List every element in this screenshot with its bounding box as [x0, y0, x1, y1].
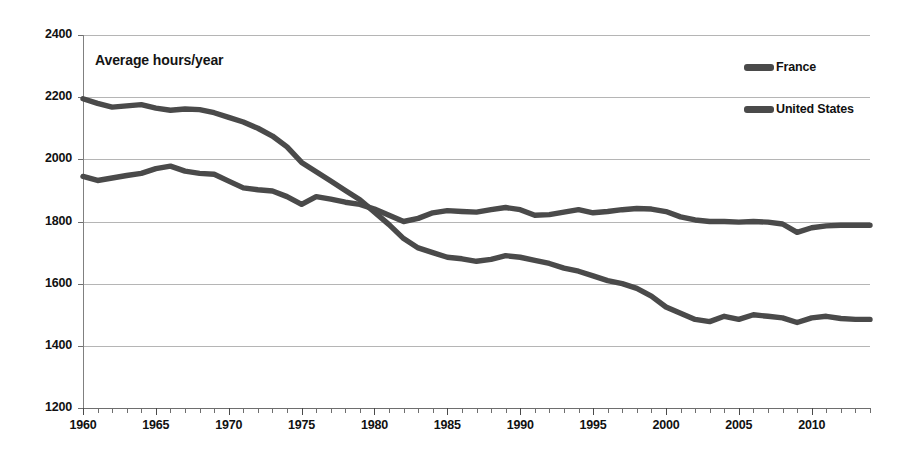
x-axis-tick-label: 1995	[580, 418, 607, 432]
y-axis-tick-label: 2000	[10, 151, 72, 165]
x-axis-tick-label: 1985	[434, 418, 461, 432]
x-tick-minor	[389, 408, 390, 413]
x-tick-minor	[331, 408, 332, 413]
legend-swatch-france	[744, 64, 774, 71]
x-tick-minor	[287, 408, 288, 413]
x-tick-minor	[622, 408, 623, 413]
x-tick-minor	[491, 408, 492, 413]
gridline	[83, 284, 870, 285]
x-tick-minor	[258, 408, 259, 413]
legend-label-united-states: United States	[776, 102, 854, 116]
x-tick-minor	[651, 408, 652, 413]
x-tick-major	[739, 408, 740, 415]
x-tick-minor	[637, 408, 638, 413]
x-tick-minor	[710, 408, 711, 413]
x-tick-minor	[272, 408, 273, 413]
x-tick-minor	[506, 408, 507, 413]
x-tick-major	[812, 408, 813, 415]
x-tick-major	[520, 408, 521, 415]
y-axis-tick-label: 1800	[10, 214, 72, 228]
y-axis-tick-label: 2200	[10, 89, 72, 103]
y-axis-line	[83, 35, 84, 408]
x-axis-tick-label: 2005	[725, 418, 752, 432]
gridline	[83, 35, 870, 36]
x-axis-tick-label: 1975	[288, 418, 315, 432]
x-axis-tick-label: 1960	[69, 418, 96, 432]
x-tick-major	[447, 408, 448, 415]
legend-swatch-united-states	[744, 106, 774, 113]
gridline	[83, 159, 870, 160]
y-axis-tick-label: 2400	[10, 27, 72, 41]
x-axis-tick-label: 1980	[361, 418, 388, 432]
x-tick-minor	[724, 408, 725, 413]
x-tick-minor	[681, 408, 682, 413]
x-tick-major	[593, 408, 594, 415]
x-tick-major	[229, 408, 230, 415]
x-tick-minor	[418, 408, 419, 413]
x-tick-minor	[564, 408, 565, 413]
x-tick-major	[302, 408, 303, 415]
x-tick-minor	[316, 408, 317, 413]
legend-entry-united-states[interactable]: United States	[744, 102, 894, 116]
gridline	[83, 222, 870, 223]
x-tick-minor	[345, 408, 346, 413]
x-tick-minor	[433, 408, 434, 413]
x-tick-minor	[200, 408, 201, 413]
y-axis-tick-label: 1400	[10, 338, 72, 352]
legend-entry-france[interactable]: France	[744, 60, 894, 74]
legend: France United States	[744, 60, 894, 144]
x-tick-minor	[841, 408, 842, 413]
x-tick-minor	[141, 408, 142, 413]
legend-label-france: France	[776, 60, 816, 74]
x-tick-minor	[477, 408, 478, 413]
x-tick-major	[666, 408, 667, 415]
x-tick-minor	[579, 408, 580, 413]
x-tick-minor	[98, 408, 99, 413]
x-tick-minor	[549, 408, 550, 413]
x-tick-minor	[462, 408, 463, 413]
line-chart: 1200140016001800200022002400 19601965197…	[0, 0, 913, 469]
x-tick-minor	[695, 408, 696, 413]
x-tick-minor	[404, 408, 405, 413]
x-tick-major	[374, 408, 375, 415]
x-tick-minor	[112, 408, 113, 413]
x-tick-minor	[127, 408, 128, 413]
x-tick-minor	[214, 408, 215, 413]
chart-title: Average hours/year	[95, 52, 223, 68]
x-axis-tick-label: 1970	[215, 418, 242, 432]
x-axis-tick-label: 2000	[652, 418, 679, 432]
y-axis-tick-label: 1600	[10, 276, 72, 290]
x-tick-minor	[783, 408, 784, 413]
x-tick-minor	[826, 408, 827, 413]
x-tick-minor	[608, 408, 609, 413]
gridline	[83, 346, 870, 347]
x-tick-minor	[243, 408, 244, 413]
x-tick-minor	[797, 408, 798, 413]
x-tick-minor	[855, 408, 856, 413]
x-tick-minor	[170, 408, 171, 413]
x-tick-minor	[753, 408, 754, 413]
x-axis-tick-label: 1965	[142, 418, 169, 432]
y-axis-tick-label: 1200	[10, 400, 72, 414]
x-tick-minor	[768, 408, 769, 413]
x-axis-tick-label: 1990	[507, 418, 534, 432]
x-tick-minor	[185, 408, 186, 413]
x-axis-tick-label: 2010	[798, 418, 825, 432]
x-tick-major	[156, 408, 157, 415]
x-tick-major	[83, 408, 84, 415]
x-tick-minor	[870, 408, 871, 413]
x-tick-minor	[535, 408, 536, 413]
x-tick-minor	[360, 408, 361, 413]
